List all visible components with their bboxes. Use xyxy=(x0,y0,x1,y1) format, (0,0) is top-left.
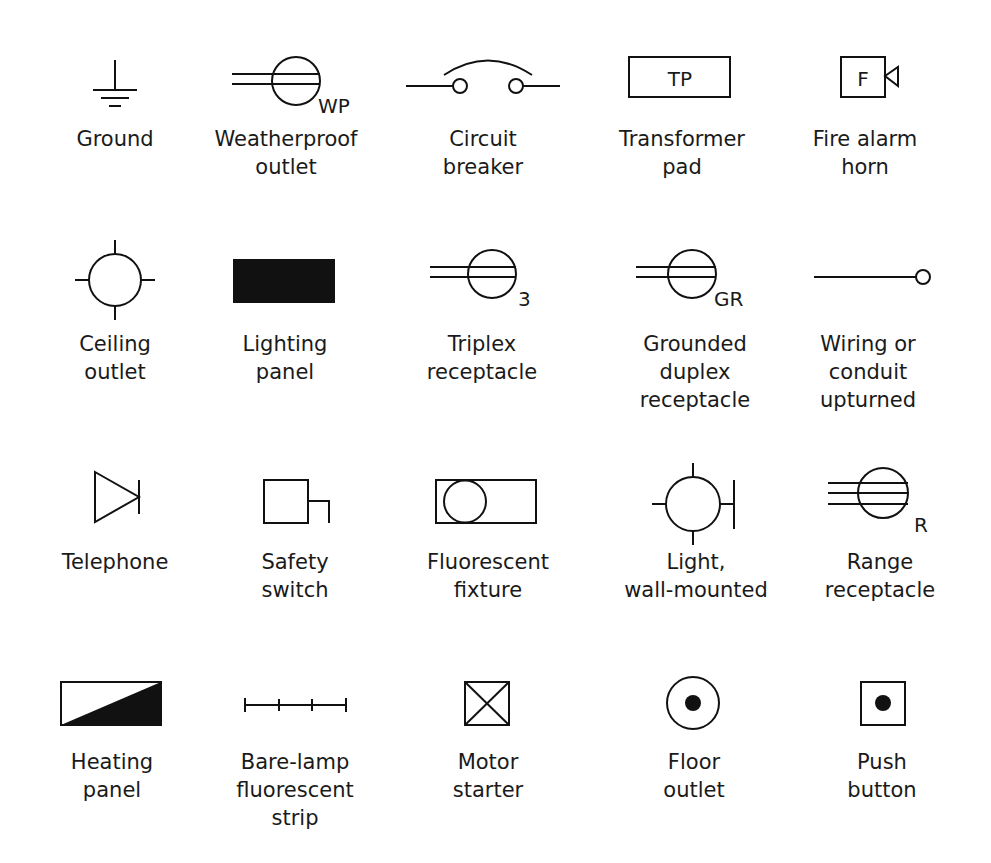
label-lighting-panel: Lighting panel xyxy=(243,330,328,386)
label-safety-switch: Safety switch xyxy=(261,548,328,604)
label-fluorescent-fixture: Fluorescent fixture xyxy=(427,548,549,604)
safety-switch-icon xyxy=(263,479,335,527)
tp-tag: TP xyxy=(667,67,692,91)
label-push-button: Push button xyxy=(847,748,916,804)
wp-tag: WP xyxy=(318,94,350,118)
telephone-icon xyxy=(94,470,144,534)
grounded-duplex-receptacle-icon: GR xyxy=(636,252,766,312)
ceiling-outlet-icon xyxy=(75,240,155,320)
ground-icon xyxy=(90,60,150,110)
wall-light-icon xyxy=(652,463,742,543)
motor-starter-icon xyxy=(464,681,512,729)
range-receptacle-icon: R xyxy=(828,474,938,534)
label-floor-outlet: Floor outlet xyxy=(663,748,724,804)
fluorescent-fixture-icon xyxy=(435,479,540,527)
label-ground: Ground xyxy=(76,125,153,153)
f-tag: F xyxy=(857,67,869,91)
label-circuit-breaker: Circuit breaker xyxy=(443,125,523,181)
label-grounded-duplex-receptacle: Grounded duplex receptacle xyxy=(640,330,750,414)
label-light-wall-mounted: Light, wall-mounted xyxy=(624,548,768,604)
r-tag: R xyxy=(914,513,928,537)
label-ceiling-outlet: Ceiling outlet xyxy=(79,330,151,386)
label-motor-starter: Motor starter xyxy=(453,748,523,804)
circuit-breaker-icon xyxy=(406,58,566,108)
label-fire-alarm-horn: Fire alarm horn xyxy=(813,125,917,181)
floor-outlet-icon xyxy=(666,676,722,732)
label-weatherproof-outlet: Weatherproof outlet xyxy=(214,125,357,181)
transformer-pad-icon: TP xyxy=(628,56,734,102)
triplex-receptacle-icon: 3 xyxy=(430,252,550,312)
push-button-icon xyxy=(860,681,908,729)
label-range-receptacle: Range receptacle xyxy=(825,548,935,604)
heating-panel-icon xyxy=(60,681,166,729)
label-wiring-upturned: Wiring or conduit upturned xyxy=(820,330,916,414)
label-bare-lamp-strip: Bare-lamp fluorescent strip xyxy=(236,748,353,832)
wiring-upturned-icon xyxy=(814,268,934,288)
lighting-panel-icon xyxy=(233,259,337,305)
triplex-tag: 3 xyxy=(518,287,531,311)
label-triplex-receptacle: Triplex receptacle xyxy=(427,330,537,386)
bare-lamp-strip-icon xyxy=(244,696,350,716)
label-transformer-pad: Transformer pad xyxy=(619,125,745,181)
label-heating-panel: Heating panel xyxy=(71,748,153,804)
label-telephone: Telephone xyxy=(62,548,169,576)
gr-tag: GR xyxy=(714,287,743,311)
weatherproof-outlet-icon: WP xyxy=(232,58,372,118)
fire-alarm-horn-icon: F xyxy=(840,56,910,102)
